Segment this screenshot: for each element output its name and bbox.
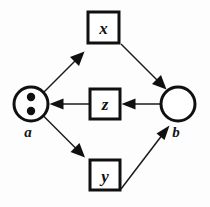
place-b[interactable] [161,87,195,121]
edge-y-to-b [121,126,170,190]
diagram-canvas: a b x z y [0,0,210,207]
edge-z-to-a [50,99,90,110]
edge-y-to-b-line [121,130,166,189]
edge-a-to-x [44,52,85,93]
edge-b-to-z [122,99,162,110]
edge-x-to-b-line [121,44,163,86]
transition-x-label: x [98,19,108,38]
transition-z[interactable]: z [90,89,120,119]
edge-z-to-a-arrowhead [50,99,64,110]
place-a-token-2 [27,107,35,115]
transition-y-label: y [99,167,109,186]
transition-x[interactable]: x [88,12,119,43]
edge-y-to-b-arrowhead [157,126,170,141]
edge-b-to-z-arrowhead [122,99,136,110]
place-a-token-1 [27,93,35,101]
place-b-circle[interactable] [161,87,195,121]
edge-x-to-b [121,44,167,90]
transition-z-label: z [101,95,109,114]
place-a-label: a [24,124,32,140]
petri-net-diagram: a b x z y [0,0,210,207]
edge-a-to-y-line [44,116,81,153]
place-a[interactable] [14,87,48,121]
place-a-circle[interactable] [14,87,48,121]
place-b-label: b [172,124,180,140]
edge-a-to-y [44,116,86,158]
transition-y[interactable]: y [90,160,120,190]
